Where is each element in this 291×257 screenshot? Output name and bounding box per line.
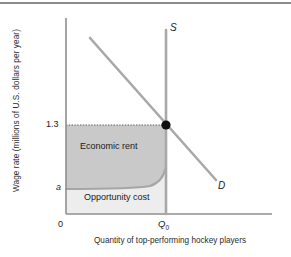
- y-tick-label-1-3: 1.3: [46, 119, 59, 129]
- x-tick-label-q0: Q0: [158, 218, 169, 231]
- origin-label: 0: [58, 219, 63, 229]
- opportunity-cost-label: Opportunity cost: [84, 192, 150, 202]
- x-tick-label-q0-subscript: 0: [165, 224, 169, 231]
- equilibrium-point-dot: [161, 120, 170, 129]
- supply-curve-label: S: [170, 22, 177, 33]
- figure-container: Wage rate (millions of U.S. dollars per …: [0, 0, 291, 257]
- y-tick-label-a: a: [56, 182, 61, 192]
- y-axis-title: Wage rate (millions of U.S. dollars per …: [12, 11, 21, 211]
- x-axis-title: Quantity of top-performing hockey player…: [55, 236, 285, 245]
- economic-rent-region: [66, 125, 166, 189]
- demand-curve-label: D: [218, 180, 225, 191]
- economic-rent-diagram: [0, 0, 291, 257]
- economic-rent-label: Economic rent: [80, 141, 138, 151]
- top-divider-rule: [0, 2, 291, 4]
